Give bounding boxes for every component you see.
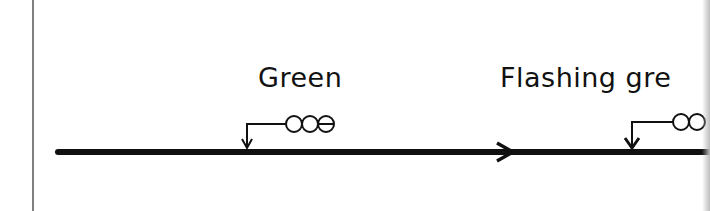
signal-label-green: Green bbox=[258, 64, 342, 91]
signal-diagram bbox=[0, 0, 710, 211]
signal-lamp bbox=[673, 114, 689, 130]
signal-lamp bbox=[286, 116, 302, 132]
signal-1 bbox=[242, 116, 334, 148]
page-edge-shadow bbox=[702, 0, 710, 211]
diagram-canvas: Green Flashing gre bbox=[0, 0, 710, 211]
signal-post bbox=[247, 124, 286, 146]
signal-lamp bbox=[302, 116, 318, 132]
signal-post bbox=[632, 122, 673, 146]
signal-label-flashing-green: Flashing gre bbox=[500, 64, 671, 91]
signal-2 bbox=[625, 114, 705, 148]
